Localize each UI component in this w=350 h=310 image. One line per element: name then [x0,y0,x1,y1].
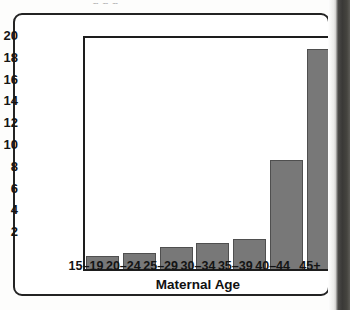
y-tick-label: 2 [0,225,18,238]
x-axis-tick-labels: 15–19 20–24 25–29 30–34 35–39 40–44 45+ [68,259,328,274]
y-tick-label: 8 [0,160,18,173]
x-tick-label-40-44: 40–44 [255,259,291,274]
y-tick-label: 14 [0,94,18,107]
y-tick-label: 10 [0,138,18,151]
x-tick-label-15-19: 15–19 [68,259,104,274]
y-tick-label: 4 [0,203,18,216]
bar-40-44[interactable] [270,160,303,269]
x-tick-label-25-29: 25–29 [143,259,179,274]
figure-outer-border [13,13,330,296]
page-edge-shadow-band [333,0,350,310]
bar-series [85,38,341,269]
cropped-text-sliver: g g g [92,0,222,4]
y-tick-label: 20 [0,29,18,42]
y-tick-label: 6 [0,182,18,195]
plot-area [85,38,341,269]
x-tick-label-35-39: 35–39 [217,259,253,274]
plot-frame [83,36,343,271]
y-tick-label: 12 [0,116,18,129]
y-axis-title: Number of Cases of Down Syndrome per 100… [14,0,50,21]
x-tick-label-30-34: 30–34 [180,259,216,274]
x-tick-label-45-plus: 45+ [292,259,328,274]
y-tick-label: 18 [0,51,18,64]
x-axis-title: Maternal Age [68,277,328,292]
chart-screenshot: { "figure": { "top_crop_sliver": "g g g"… [0,0,350,310]
x-tick-label-20-24: 20–24 [105,259,141,274]
y-tick-label: 16 [0,73,18,86]
